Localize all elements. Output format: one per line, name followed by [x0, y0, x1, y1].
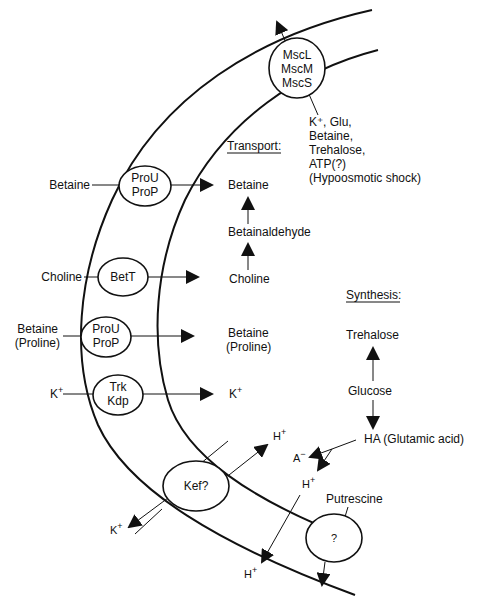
h-bottom-arrow [262, 495, 300, 562]
betaine-outside-label: Betaine [49, 178, 90, 192]
kef-label: Kef? [184, 479, 209, 493]
k-outside-label: K+ [50, 385, 63, 401]
msc-label-3: MscS [282, 76, 312, 90]
h-bottom-label: H+ [244, 565, 257, 580]
trehalose-label: Trehalose [346, 328, 399, 342]
osmoregulation-diagram: MscL MscM MscS K⁺, Glu, Betaine, Trehalo… [0, 0, 485, 597]
proP-label-1: ProP [132, 185, 159, 199]
efflux-line-4: ATP(?) [309, 157, 346, 171]
proline-outside-label-2: (Proline) [15, 336, 60, 350]
putrescine-label: Putrescine [326, 492, 383, 506]
proP-label-2: ProP [93, 336, 120, 350]
msc-label-1: MscL [283, 48, 312, 62]
betT-label: BetT [110, 270, 136, 284]
outer-membrane [81, 10, 372, 595]
ha-split-line [332, 440, 356, 449]
betaine-inside-label: Betaine [228, 178, 269, 192]
efflux-line-3: Trehalose, [309, 143, 365, 157]
proU-label-2: ProU [92, 322, 119, 336]
kef-tick-top [200, 441, 228, 464]
betainaldehyde-label: Betainaldehyde [228, 225, 311, 239]
k-inside-label: K+ [229, 385, 242, 401]
a-minus-label: A− [293, 449, 306, 464]
choline-inside-label: Choline [229, 272, 270, 286]
k-out-kef-arrow [129, 498, 168, 527]
a-minus-arrow [310, 449, 332, 457]
k-out-kef-label: K+ [110, 521, 123, 536]
efflux-line-2: Betaine, [309, 129, 353, 143]
ha-label: HA (Glutamic acid) [364, 432, 464, 446]
choline-outside-label: Choline [41, 270, 82, 284]
h-plus-arrow [318, 449, 332, 470]
transport-heading: Transport: [227, 139, 281, 153]
putrescine-efflux-arrow [322, 562, 325, 585]
efflux-line-5: (Hypoosmotic shock) [309, 171, 421, 185]
trk-label: Trk [110, 380, 128, 394]
h-out-kef-arrow [229, 445, 267, 475]
h-out-kef-label: H+ [273, 427, 286, 442]
h-plus-inside-label: H+ [302, 475, 315, 490]
kdp-label: Kdp [107, 394, 129, 408]
msc-label-2: MscM [281, 62, 313, 76]
synthesis-heading: Synthesis: [346, 288, 401, 302]
betaine-inside-label-2: Betaine [228, 326, 269, 340]
efflux-line-1: K⁺, Glu, [309, 115, 352, 129]
glucose-label: Glucose [348, 384, 392, 398]
unknown-transporter-label: ? [331, 532, 337, 544]
betaine-outside-label-2: Betaine [17, 322, 58, 336]
proline-inside-label-2: (Proline) [226, 340, 271, 354]
proU-label-1: ProU [131, 171, 158, 185]
